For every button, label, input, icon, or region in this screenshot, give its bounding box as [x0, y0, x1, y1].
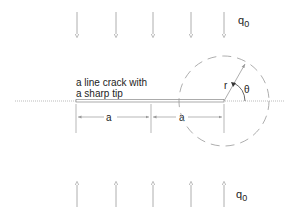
- dimension-a-left: a: [106, 112, 112, 123]
- dimension-lines: [76, 104, 224, 133]
- crack-label-line1: a line crack with: [76, 77, 147, 88]
- load-label-top: q0: [238, 14, 249, 29]
- bottom-load-arrows: [77, 183, 224, 207]
- top-load-arrows: [77, 12, 224, 36]
- angle-arrow-icon: [231, 82, 236, 87]
- crack: [76, 100, 224, 103]
- angle-label: θ: [244, 84, 250, 95]
- radius-label: r: [224, 80, 228, 91]
- crack-diagram: q0 a line crack with a sharp tip a a r: [0, 0, 294, 219]
- load-label-bottom: q0: [236, 188, 247, 203]
- crack-label-line2: a sharp tip: [76, 88, 123, 99]
